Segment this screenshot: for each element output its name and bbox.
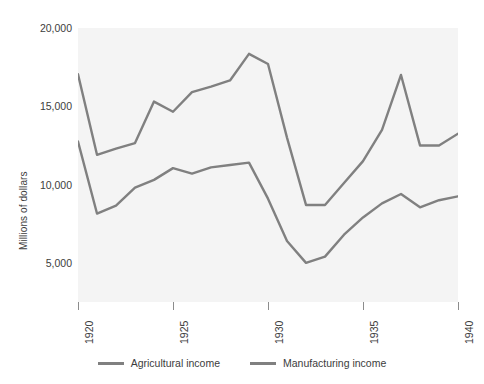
legend-line-icon — [98, 362, 124, 365]
chart-legend: Agricultural incomeManufacturing income — [0, 352, 484, 374]
legend-label: Agricultural income — [131, 357, 220, 369]
x-tick-label: 1940 — [463, 321, 475, 344]
x-tick-mark — [173, 302, 174, 310]
legend-item[interactable]: Manufacturing income — [250, 357, 386, 369]
x-tick-label: 1935 — [368, 321, 380, 344]
x-tick-mark — [363, 302, 364, 310]
plot-area — [78, 28, 458, 302]
x-tick-label: 1920 — [83, 321, 95, 344]
series-line — [78, 54, 458, 205]
x-axis-tick-labels: 19201925193019351940 — [0, 312, 484, 352]
series-line — [78, 142, 458, 263]
line-chart-figure: Millions of dollars 5,00010,00015,00020,… — [0, 0, 484, 384]
legend-item[interactable]: Agricultural income — [98, 357, 220, 369]
legend-label: Manufacturing income — [283, 357, 386, 369]
x-tick-mark — [78, 302, 79, 310]
y-tick-label: 20,000 — [30, 22, 72, 34]
y-tick-label: 5,000 — [30, 257, 72, 269]
x-tick-label: 1925 — [178, 321, 190, 344]
legend-line-icon — [250, 362, 276, 365]
x-tick-mark — [268, 302, 269, 310]
x-tick-mark — [458, 302, 459, 310]
x-tick-label: 1930 — [273, 321, 285, 344]
plot-lines-svg — [78, 28, 458, 302]
y-tick-label: 10,000 — [30, 179, 72, 191]
x-axis-tick-marks — [0, 302, 484, 312]
y-tick-label: 15,000 — [30, 100, 72, 112]
